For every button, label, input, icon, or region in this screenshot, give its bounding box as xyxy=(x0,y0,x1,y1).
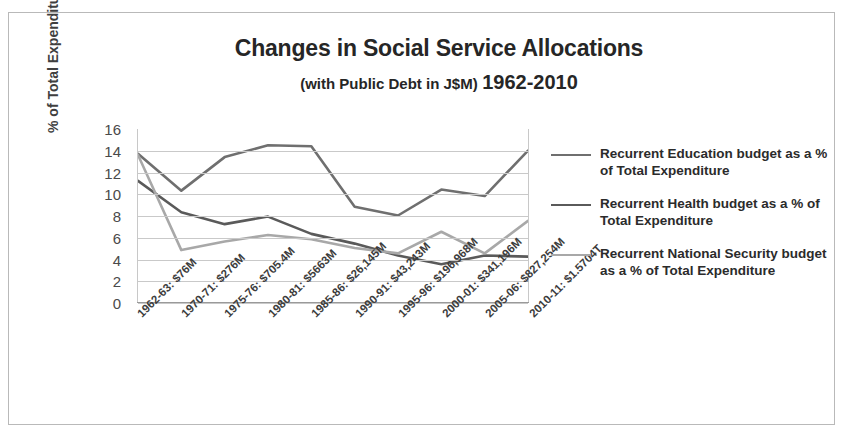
legend-item-label: Recurrent Health budget as a % of Total … xyxy=(600,195,839,229)
y-axis-ticks: 1614121086420 xyxy=(87,121,121,311)
gridline xyxy=(138,151,528,152)
legend-line-swatch xyxy=(549,248,593,262)
gridline xyxy=(138,216,528,217)
chart-subtitle-years: 1962-2010 xyxy=(482,71,578,93)
gridline xyxy=(138,194,528,195)
legend-item[interactable]: Recurrent Health budget as a % of Total … xyxy=(549,195,839,229)
y-axis-tick: 12 xyxy=(91,166,121,181)
y-axis-tick: 0 xyxy=(91,296,121,311)
y-axis-tick: 14 xyxy=(91,144,121,159)
y-axis-tick: 10 xyxy=(91,187,121,202)
data-series-line xyxy=(138,145,528,215)
chart-subtitle-note: (with Public Debt in J$M) xyxy=(300,75,478,92)
gridline xyxy=(138,173,528,174)
legend-item[interactable]: Recurrent National Security budget as a … xyxy=(549,245,839,279)
chart-legend: Recurrent Education budget as a % of Tot… xyxy=(549,145,839,295)
legend-item[interactable]: Recurrent Education budget as a % of Tot… xyxy=(549,145,839,179)
chart-frame: Changes in Social Service Allocations (w… xyxy=(8,12,835,425)
plot-area xyxy=(137,129,529,303)
legend-line-swatch xyxy=(549,198,593,212)
y-axis-tick: 4 xyxy=(91,253,121,268)
legend-item-label: Recurrent Education budget as a % of Tot… xyxy=(600,145,839,179)
x-axis-labels: 1962-63: $76M1970-71: $276M1975-76: $705… xyxy=(137,305,529,435)
legend-line-swatch xyxy=(549,148,593,162)
y-axis-tick: 16 xyxy=(91,122,121,137)
legend-item-label: Recurrent National Security budget as a … xyxy=(600,245,839,279)
y-axis-tick: 6 xyxy=(91,231,121,246)
y-axis-tick: 8 xyxy=(91,209,121,224)
y-axis-label: % of Total Expenditure xyxy=(45,0,61,133)
chart-subtitle: (with Public Debt in J$M) 1962-2010 xyxy=(159,71,719,94)
chart-title: Changes in Social Service Allocations xyxy=(159,35,719,62)
y-axis-tick: 2 xyxy=(91,274,121,289)
